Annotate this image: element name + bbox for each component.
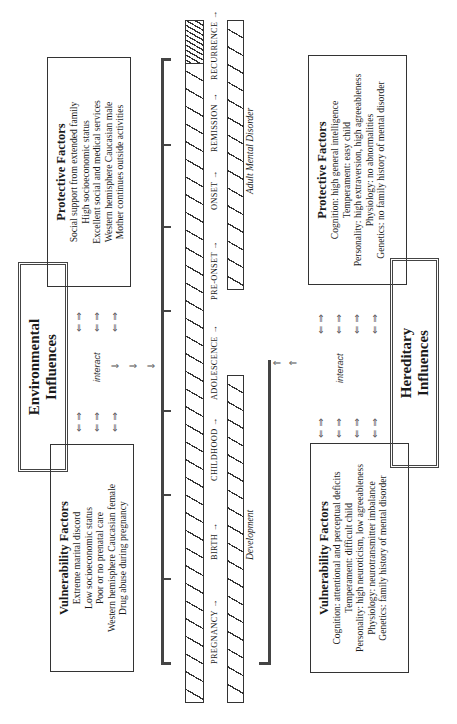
bidirectional-arrow-icon: ⇐ ⇒ xyxy=(74,412,84,432)
stage-remission: REMISSION → xyxy=(210,93,219,152)
environmental-bracket-tick xyxy=(161,227,171,229)
environmental-bracket-tick xyxy=(161,411,171,413)
stage-childhood: CHILDHOOD → xyxy=(210,417,219,481)
timeline-top-bar xyxy=(185,63,204,703)
stage-birth: BIRTH → xyxy=(210,523,219,560)
bidirectional-arrow-icon: ⇐ ⇒ xyxy=(370,314,380,334)
environmental-bracket-end xyxy=(161,59,171,62)
bidirectional-arrow-icon: ⇐ ⇒ xyxy=(370,418,380,438)
bidirectional-arrow-icon: ⇐ ⇒ xyxy=(334,418,344,438)
environmental-vulnerability-item: Low socioeconomic status xyxy=(83,445,95,671)
environmental-influences-box: Environmental Influences xyxy=(18,262,68,472)
stage-pre-onset: PRE-ONSET → xyxy=(210,241,219,300)
stage-onset: ONSET → xyxy=(210,171,219,210)
environmental-vulnerability-title: Vulnerability Factors xyxy=(57,445,71,671)
environmental-protective-item: Mother continues outside activities xyxy=(114,58,126,286)
environmental-vulnerability-item: Extreme marital discord xyxy=(71,445,83,671)
hereditary-interact-label: interact xyxy=(335,353,345,383)
bidirectional-arrow-icon: ⇐ ⇒ xyxy=(334,314,344,334)
environmental-bracket-tick xyxy=(161,579,171,581)
environmental-bracket-tick xyxy=(161,311,171,313)
hereditary-protective-item: Genetics: no family history of mental di… xyxy=(375,56,387,284)
hereditary-protective-item: Physiology: no abnormalities xyxy=(364,56,376,284)
environmental-interact-label: interact xyxy=(92,352,102,382)
bidirectional-arrow-icon: ⇐ ⇒ xyxy=(316,314,326,334)
hereditary-vulnerability-item: Physiology: neurotransmitter imbalance xyxy=(366,444,378,672)
bidirectional-arrow-icon: ⇐ ⇒ xyxy=(92,312,102,332)
hereditary-protective-title: Protective Factors xyxy=(315,56,329,284)
environmental-protective-item: Western hemisphere Caucasian male xyxy=(103,58,115,286)
stage-recurrence: RECURRENCE → xyxy=(210,11,219,80)
hereditary-vulnerability-item: Temperament: difficult child xyxy=(343,444,355,672)
adult-disorder-bar xyxy=(227,20,244,290)
environmental-bracket-line xyxy=(161,59,164,665)
down-arrow-icon: ⇒ xyxy=(129,361,137,371)
bidirectional-arrow-icon: ⇐ ⇒ xyxy=(92,412,102,432)
hereditary-bracket-line xyxy=(268,360,271,665)
down-arrow-icon: ⇒ xyxy=(147,361,155,371)
environmental-protective-title: Protective Factors xyxy=(54,58,68,286)
environmental-vulnerability-box: Vulnerability Factors Extreme marital di… xyxy=(50,444,134,672)
hereditary-vulnerability-item: Personality: high neuroticism, low agree… xyxy=(354,444,366,672)
up-arrow-icon: ⇐ xyxy=(289,358,297,368)
hereditary-influences-box: Hereditary Influences xyxy=(390,258,439,468)
environmental-protective-box: Protective Factors Social support from e… xyxy=(47,57,131,287)
development-bar xyxy=(227,375,244,703)
up-arrow-icon: ⇐ xyxy=(273,358,281,368)
hereditary-protective-item: Temperament: easy child xyxy=(341,56,353,284)
environmental-protective-item: High socioeconomic status xyxy=(80,58,92,286)
hereditary-influences-title-line2: Influences xyxy=(415,330,432,396)
hereditary-vulnerability-box: Vulnerability Factors Cognition: attenti… xyxy=(310,443,409,673)
hereditary-protective-item: Personality: high extraversion, high agr… xyxy=(352,56,364,284)
environmental-vulnerability-item: Western hemisphere Caucasian female xyxy=(106,445,118,671)
bidirectional-arrow-icon: ⇐ ⇒ xyxy=(110,312,120,332)
environmental-vulnerability-item: Poor or no prenatal care xyxy=(94,445,106,671)
hereditary-vulnerability-title: Vulnerability Factors xyxy=(317,444,331,672)
development-caption: Development xyxy=(245,510,255,560)
timeline-top-bar-recurrence xyxy=(185,20,204,64)
adult-disorder-caption: Adult Mental Disorder xyxy=(245,108,255,194)
hereditary-protective-box: Protective Factors Cognition: high gener… xyxy=(308,55,407,285)
hereditary-vulnerability-item: Cognition: attentional and perceptual de… xyxy=(331,444,343,672)
environmental-bracket-tick xyxy=(161,495,171,497)
stage-adolescence: ADOLESCENCE → xyxy=(210,325,219,400)
bidirectional-arrow-icon: ⇐ ⇒ xyxy=(352,418,362,438)
hereditary-influences-title-line1: Hereditary xyxy=(398,328,415,399)
stage-pregnancy: PREGNANCY → xyxy=(210,599,219,664)
environmental-influences-title-line2: Influences xyxy=(43,334,60,400)
environmental-protective-item: Excellent social and medical services xyxy=(91,58,103,286)
hereditary-protective-item: Cognition: high general intelligence xyxy=(329,56,341,284)
environmental-vulnerability-item: Drug abuse during pregnancy xyxy=(117,445,129,671)
bidirectional-arrow-icon: ⇐ ⇒ xyxy=(352,314,362,334)
hereditary-bracket-end xyxy=(259,663,270,666)
environmental-bracket-tick xyxy=(161,145,171,147)
bidirectional-arrow-icon: ⇐ ⇒ xyxy=(316,418,326,438)
bidirectional-arrow-icon: ⇐ ⇒ xyxy=(74,312,84,332)
environmental-influences-title-line1: Environmental xyxy=(26,319,43,415)
diagram-canvas: Environmental Influences Vulnerability F… xyxy=(0,0,457,724)
environmental-protective-item: Social support from extended family xyxy=(68,58,80,286)
bidirectional-arrow-icon: ⇐ ⇒ xyxy=(110,412,120,432)
down-arrow-icon: ⇒ xyxy=(111,361,119,371)
hereditary-vulnerability-item: Genetics: family history of mental disor… xyxy=(377,444,389,672)
environmental-bracket-end xyxy=(161,663,171,666)
